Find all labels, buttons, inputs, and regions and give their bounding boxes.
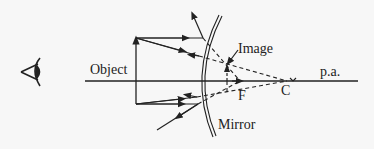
incident-rays-upper bbox=[136, 38, 203, 56]
center-label: C bbox=[281, 84, 290, 98]
object-label: Object bbox=[90, 63, 127, 77]
ray-diagram: Object Image p.a. F C Mirror bbox=[0, 0, 374, 149]
image-pointer bbox=[229, 50, 238, 62]
focus-label: F bbox=[238, 89, 246, 103]
principal-axis-label: p.a. bbox=[320, 65, 340, 79]
eye-icon bbox=[21, 58, 40, 86]
diagram-svg bbox=[0, 0, 374, 149]
incident-rays-lower bbox=[136, 97, 198, 104]
image-label: Image bbox=[238, 42, 273, 56]
image-arrow bbox=[224, 64, 230, 81]
reflected-rays-upper bbox=[191, 15, 203, 56]
reflected-rays-lower bbox=[157, 95, 198, 130]
mirror-label: Mirror bbox=[218, 118, 255, 132]
